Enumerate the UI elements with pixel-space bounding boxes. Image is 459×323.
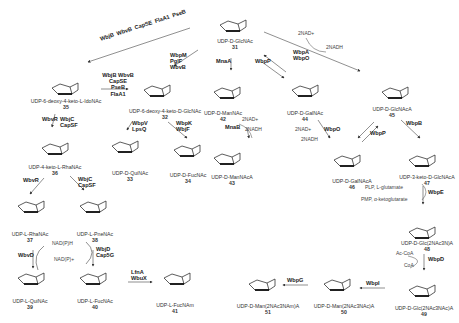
enzyme-label-32-33: WbpV LpsQ	[132, 120, 148, 132]
enzyme-label-38-40: WbjD Cap5G	[96, 246, 114, 258]
cofactor-2nad-plus-42-43: 2NAD+	[242, 116, 258, 122]
enzyme-label-47-48: WbpE	[428, 189, 444, 195]
compound-number: 39	[5, 304, 55, 310]
cofactor-2nadh-42-43: 2NADH	[245, 126, 262, 132]
compound-31: UDP-D-GlcNAc 31	[205, 38, 265, 50]
compound-number: 41	[150, 308, 200, 314]
compound-44: UDP-D-GalNAc 44	[280, 110, 330, 122]
enzyme-label-50-51: WbpG	[287, 277, 303, 283]
compound-number: 50	[310, 309, 378, 315]
compound-49: UDP-D-Glc(2NAc3NAc)A 49	[390, 305, 458, 317]
compound-40: UDP-L-FucNAc 40	[70, 298, 120, 310]
compound-43: UDP-D-ManNAcA 43	[204, 174, 260, 186]
compound-42: UDP-D-ManNAc 42	[198, 110, 248, 122]
enzyme-label-49-50: WbpI	[366, 280, 380, 286]
compound-number: 31	[205, 44, 265, 50]
cofactor-2nad-plus-31-45: 2NAD+	[298, 30, 314, 36]
enzyme-label-31-45: WbpA WbpO	[293, 49, 309, 61]
enzyme-label-45-46: WbpP	[370, 130, 386, 136]
enzyme-label-36-38: WbjC CapSF	[78, 176, 96, 188]
enzyme-label-35-32: WbjB WbvB CapSE PseB FlaA1	[102, 72, 134, 97]
compound-number: 47	[395, 180, 459, 186]
compound-33: UDP-D-QuiNAc 33	[105, 170, 155, 182]
compound-number: 42	[198, 116, 248, 122]
cofactor-pmp-ketoglutarate: PMP, α-ketoglutarate	[361, 196, 407, 202]
enzyme-label-37-39: WbvD	[18, 252, 34, 258]
compound-41: UDP-L-FucNAm 41	[150, 302, 200, 314]
enzyme-label-42-43: MnaB	[225, 124, 240, 130]
compound-number: 45	[365, 112, 419, 118]
enzyme-label-48-49: WbpD	[428, 256, 444, 262]
compound-39: UDP-L-QuiNAc 39	[5, 298, 55, 310]
enzyme-label-45-47: WbpB	[406, 120, 422, 126]
enzyme-label-44-46: WbpO	[324, 126, 340, 132]
cofactor-2nadh-44-46: 2NADH	[301, 136, 318, 142]
cofactor-nadp-plus: NAD(P)+	[54, 256, 74, 262]
enzyme-label-36-37: WbvR	[23, 177, 39, 183]
enzyme-label-35-36-b: WbjC CapSF	[60, 116, 78, 128]
compound-47: UDP-3-keto-D-GlcNAcA 47	[395, 174, 459, 186]
compound-38: UDP-L-PneNAc 38	[70, 231, 120, 243]
compound-51: UDP-D-Man(2NAc3NAm)A 51	[233, 303, 303, 315]
enzyme-label-40-41: LfnA WbuX	[131, 269, 147, 281]
cofactor-coa: CoA	[404, 262, 414, 268]
compound-number: 43	[204, 180, 260, 186]
compound-32: UDP-6-deoxy-4-keto-D-GlcNAc 32	[125, 108, 205, 120]
compound-45: UDP-D-GlcNAcA 45	[365, 106, 419, 118]
compound-number: 40	[70, 304, 120, 310]
compound-50: UDP-D-Man(2NAc3NAc)A 50	[310, 303, 378, 315]
compound-number: 37	[5, 237, 55, 243]
compound-number: 38	[70, 237, 120, 243]
cofactor-nadph: NAD(P)H	[52, 240, 73, 246]
enzyme-label-31-44: WbpP	[255, 58, 271, 64]
enzyme-label-31-42: MnaA	[216, 58, 231, 64]
enzyme-label-35-36-a: WbvR	[42, 116, 58, 122]
cofactor-2nadh-31-45: 2NADH	[326, 44, 343, 50]
compound-36: UDP-4-keto-L-RhaNAc 36	[20, 164, 90, 176]
cofactor-2nad-plus-44-46: 2NAD+	[295, 126, 311, 132]
enzyme-label-31-32: WbpM PglF WbvB	[170, 52, 187, 71]
cofactor-plp-glutamate: PLP, L-glutamate	[365, 184, 403, 190]
compound-35: UDP-6-deoxy-4-keto-L-IdoNAc 35	[26, 98, 106, 110]
compound-number: 49	[390, 311, 458, 317]
compound-number: 51	[233, 309, 303, 315]
compound-number: 44	[280, 116, 330, 122]
compound-number: 35	[26, 104, 106, 110]
enzyme-label-32-34: WbpK WbjF	[176, 120, 192, 132]
cofactor-ac-coa: Ac-CoA	[396, 250, 413, 256]
compound-number: 33	[105, 176, 155, 182]
compound-37: UDP-L-RhaNAc 37	[5, 231, 55, 243]
